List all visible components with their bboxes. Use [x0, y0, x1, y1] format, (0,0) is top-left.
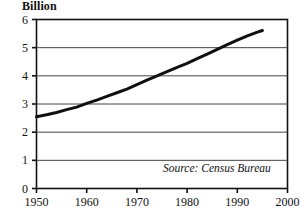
- x-tick-label: 1950: [15, 196, 59, 208]
- plot-canvas: [0, 0, 300, 215]
- source-annotation: Source: Census Bureau: [163, 162, 271, 175]
- x-tick-label: 2000: [266, 196, 301, 208]
- x-tick-label: 1970: [115, 196, 159, 208]
- y-tick-label: 6: [6, 14, 28, 26]
- y-tick-label: 3: [6, 98, 28, 110]
- y-tick-label: 2: [6, 126, 28, 138]
- x-tick-label: 1980: [165, 196, 209, 208]
- y-tick-label: 1: [6, 154, 28, 166]
- y-tick-label: 0: [6, 183, 28, 195]
- x-tick-label: 1960: [65, 196, 109, 208]
- x-tick-label: 1990: [215, 196, 259, 208]
- population-line-chart: Billion 0123456 195019601970198019902000…: [0, 0, 300, 215]
- y-tick-label: 5: [6, 42, 28, 54]
- y-tick-label: 4: [6, 70, 28, 82]
